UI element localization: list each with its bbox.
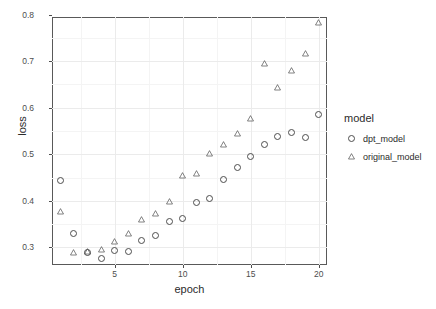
data-point-dpt_model-5 — [111, 247, 118, 254]
data-point-original_model-18 — [288, 67, 295, 74]
y-axis-tick — [49, 154, 52, 155]
x-axis-tick — [115, 265, 116, 268]
data-point-dpt_model-2 — [70, 230, 77, 237]
x-axis-tick — [251, 265, 252, 268]
data-point-dpt_model-14 — [234, 164, 241, 171]
legend-key-triangle — [344, 149, 359, 164]
data-point-dpt_model-16 — [261, 141, 268, 148]
y-axis-tick-label: 0.4 — [22, 196, 34, 206]
data-point-original_model-16 — [261, 60, 268, 67]
y-axis-tick — [49, 61, 52, 62]
data-point-dpt_model-19 — [302, 134, 309, 141]
data-point-original_model-1 — [57, 208, 64, 215]
data-point-dpt_model-13 — [220, 176, 227, 183]
y-axis-tick-label: 0.3 — [22, 242, 34, 252]
x-axis-tick — [183, 265, 184, 268]
data-point-original_model-2 — [70, 249, 77, 256]
x-axis-tick-labels: 5101520 — [52, 269, 327, 283]
data-point-original_model-15 — [247, 115, 254, 122]
data-point-dpt_model-1 — [57, 177, 64, 184]
x-axis-tick-label: 5 — [112, 269, 117, 279]
legend-title: model — [344, 112, 436, 124]
legend: model dpt_modeloriginal_model — [344, 112, 436, 166]
data-point-dpt_model-15 — [247, 153, 254, 160]
circle-marker — [348, 135, 355, 142]
data-point-dpt_model-20 — [315, 111, 322, 118]
data-point-dpt_model-17 — [274, 133, 281, 140]
data-point-original_model-4 — [98, 246, 105, 253]
x-axis-tick-label: 10 — [178, 269, 187, 279]
y-axis-tick — [49, 247, 52, 248]
data-point-dpt_model-11 — [193, 199, 200, 206]
y-axis-tick-label: 0.8 — [22, 10, 34, 20]
y-axis-ticks — [44, 17, 52, 265]
data-point-dpt_model-4 — [98, 255, 105, 262]
data-point-dpt_model-8 — [152, 232, 159, 239]
y-axis-title: loss — [16, 96, 28, 156]
x-axis-tick-label: 20 — [314, 269, 323, 279]
data-points-layer — [52, 17, 327, 265]
data-point-original_model-7 — [138, 216, 145, 223]
data-point-original_model-17 — [274, 84, 281, 91]
x-axis-tick — [319, 265, 320, 268]
legend-key-circle — [344, 131, 359, 146]
legend-item-label: dpt_model — [363, 134, 405, 144]
y-axis-tick — [49, 15, 52, 16]
data-point-original_model-5 — [111, 238, 118, 245]
data-point-original_model-12 — [206, 150, 213, 157]
legend-entries: dpt_modeloriginal_model — [344, 130, 436, 165]
data-point-dpt_model-10 — [179, 215, 186, 222]
x-axis-title: epoch — [52, 283, 327, 295]
data-point-dpt_model-7 — [138, 237, 145, 244]
legend-item-original_model[interactable]: original_model — [344, 148, 436, 165]
data-point-dpt_model-3 — [84, 249, 91, 256]
x-axis-tick-label: 15 — [246, 269, 255, 279]
y-axis-tick — [49, 201, 52, 202]
data-point-original_model-19 — [302, 50, 309, 57]
y-axis-tick-label: 0.7 — [22, 56, 34, 66]
data-point-original_model-3 — [84, 248, 91, 255]
data-point-original_model-13 — [220, 141, 227, 148]
data-point-original_model-8 — [152, 210, 159, 217]
data-point-original_model-14 — [234, 130, 241, 137]
legend-item-dpt_model[interactable]: dpt_model — [344, 130, 436, 147]
data-point-original_model-9 — [166, 198, 173, 205]
data-point-original_model-20 — [315, 19, 322, 26]
data-point-original_model-6 — [125, 230, 132, 237]
legend-item-label: original_model — [363, 152, 422, 162]
plot-panel — [52, 17, 327, 265]
data-point-dpt_model-9 — [166, 218, 173, 225]
y-axis-tick — [49, 108, 52, 109]
data-point-dpt_model-18 — [288, 129, 295, 136]
data-point-dpt_model-12 — [206, 195, 213, 202]
data-point-dpt_model-6 — [125, 248, 132, 255]
data-point-original_model-11 — [193, 170, 200, 177]
data-point-original_model-10 — [179, 172, 186, 179]
triangle-marker — [348, 153, 355, 160]
chart-figure: 0.30.40.50.60.70.8 loss 5101520 epoch mo… — [0, 0, 436, 309]
